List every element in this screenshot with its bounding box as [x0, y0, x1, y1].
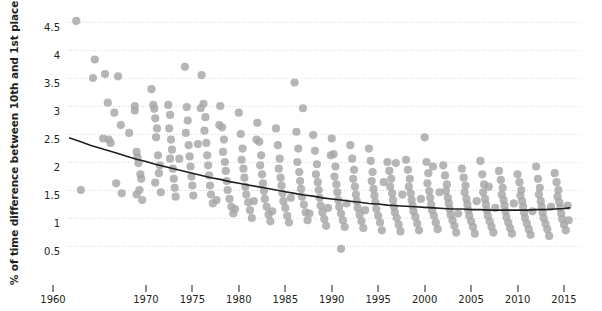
x-tick-label: 1960 [40, 294, 65, 305]
x-tick-label: 1975 [180, 294, 205, 305]
x-tick-mark [564, 285, 565, 292]
x-axis: 1960197019751980198519901995200020052010… [0, 285, 602, 311]
x-tick-label: 2010 [505, 294, 530, 305]
y-tick-label: 1.5 [44, 190, 60, 201]
y-tick-label: 1 [54, 218, 60, 229]
y-tick-label: 4.5 [44, 22, 60, 33]
y-tick-label: 3 [54, 106, 60, 117]
x-tick-mark [53, 285, 54, 292]
x-tick-label: 1985 [273, 294, 298, 305]
x-tick-mark [192, 285, 193, 292]
x-tick-label: 1995 [365, 294, 390, 305]
x-tick-mark [378, 285, 379, 292]
x-tick-label: 1980 [226, 294, 251, 305]
trend-line-layer [0, 0, 602, 285]
x-tick-mark [145, 285, 146, 292]
plot-area [0, 0, 602, 285]
scatter-chart: % of time difference between 10th and 1s… [0, 0, 602, 311]
x-tick-mark [517, 285, 518, 292]
x-tick-label: 2000 [412, 294, 437, 305]
y-tick-label: 2 [54, 162, 60, 173]
x-tick-label: 1990 [319, 294, 344, 305]
y-tick-label: 2.5 [44, 134, 60, 145]
x-tick-label: 1970 [133, 294, 158, 305]
trend-line [70, 138, 570, 210]
x-tick-mark [424, 285, 425, 292]
y-tick-label: 3.5 [44, 78, 60, 89]
x-tick-mark [238, 285, 239, 292]
x-tick-label: 2015 [551, 294, 576, 305]
x-tick-mark [285, 285, 286, 292]
x-tick-mark [471, 285, 472, 292]
y-axis-tick-labels: 0.511.522.533.544.5 [28, 0, 64, 285]
y-tick-label: 4 [54, 50, 60, 61]
x-tick-label: 2005 [458, 294, 483, 305]
y-tick-label: 0.5 [44, 246, 60, 257]
x-tick-mark [331, 285, 332, 292]
